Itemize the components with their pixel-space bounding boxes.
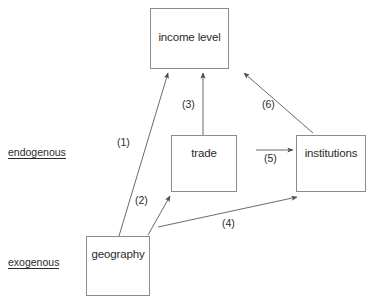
node-institutions-label: institutions: [305, 147, 358, 160]
node-geography[interactable]: geography: [86, 236, 150, 296]
diagram-canvas: income level trade institutions geograph…: [0, 0, 370, 301]
edge-label-1: (1): [117, 136, 130, 148]
edge-arrow-2: [148, 196, 170, 235]
node-income-level-label: income level: [158, 31, 220, 44]
edge-label-5: (5): [264, 152, 277, 164]
node-income-level[interactable]: income level: [150, 8, 229, 69]
edge-label-3: (3): [182, 98, 195, 110]
edge-label-4: (4): [222, 217, 235, 229]
node-trade-label: trade: [191, 147, 216, 160]
tier-label-endogenous: endogenous: [8, 146, 66, 159]
node-trade[interactable]: trade: [171, 135, 237, 192]
node-geography-label: geography: [92, 248, 145, 261]
edge-arrow-6: [244, 73, 313, 133]
edge-label-2: (2): [135, 194, 148, 206]
edge-label-6: (6): [262, 98, 275, 110]
node-institutions[interactable]: institutions: [296, 135, 366, 192]
tier-label-exogenous: exogenous: [8, 256, 59, 269]
edge-arrow-1: [119, 73, 168, 236]
